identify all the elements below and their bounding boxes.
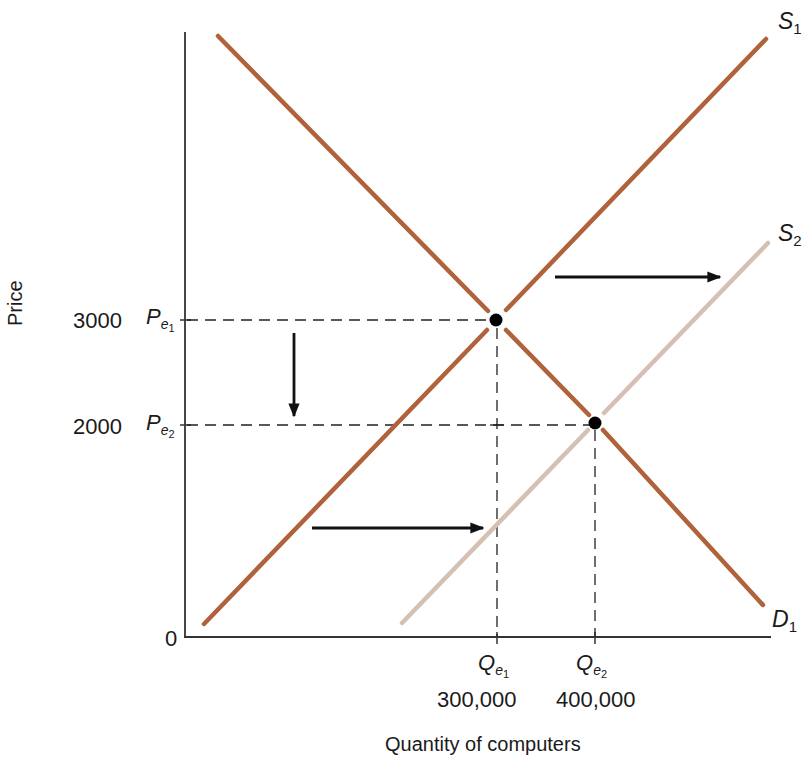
x-tick-symbol-qe1: Qe1 [478, 650, 509, 680]
curve-label-s2: S2 [778, 220, 802, 249]
symbol-main: P [146, 304, 161, 329]
symbol-main: Q [576, 650, 593, 675]
curve-s2 [402, 243, 768, 623]
symbol-main: Q [478, 650, 495, 675]
equilibrium-point-1 [490, 314, 503, 327]
symbol-subsub: 1 [168, 322, 174, 334]
curve-label-main: S [778, 8, 793, 34]
curve-label-d1: D1 [772, 606, 797, 635]
curve-label-main: D [772, 606, 789, 632]
curve-label-sub: 1 [793, 20, 801, 37]
x-tick-label-400000: 400,000 [556, 687, 636, 713]
y-axis-title-text: Price [4, 280, 26, 326]
y-tick-symbol-pe2: Pe2 [146, 410, 175, 440]
y-tick-label-2000: 2000 [73, 414, 122, 440]
equilibrium-point-2 [589, 417, 602, 430]
symbol-subsub: 1 [503, 668, 509, 680]
curve-label-main: S [778, 220, 793, 246]
x-tick-symbol-qe2: Qe2 [576, 650, 607, 680]
symbol-subsub: 2 [168, 428, 174, 440]
dashed-guides [187, 320, 595, 636]
x-tick-label-300000: 300,000 [437, 687, 517, 713]
y-axis-title: Price [4, 280, 27, 326]
symbol-sub: e [495, 662, 503, 678]
curve-label-sub: 2 [793, 232, 801, 249]
symbol-subsub: 2 [601, 668, 607, 680]
supply-demand-chart [0, 0, 809, 758]
x-axis-title-text: Quantity of computers [385, 733, 581, 755]
y-tick-value: 2000 [73, 414, 122, 439]
symbol-sub: e [593, 662, 601, 678]
curve-label-s1: S1 [778, 8, 802, 37]
x-tick-value: 400,000 [556, 687, 636, 712]
curve-label-sub: 1 [789, 618, 797, 635]
origin-label: 0 [165, 626, 177, 652]
x-axis-title: Quantity of computers [385, 733, 581, 756]
y-tick-symbol-pe1: Pe1 [146, 304, 175, 334]
origin-text: 0 [165, 626, 177, 651]
x-tick-value: 300,000 [437, 687, 517, 712]
symbol-main: P [146, 410, 161, 435]
y-tick-value: 3000 [73, 308, 122, 333]
y-tick-label-3000: 3000 [73, 308, 122, 334]
